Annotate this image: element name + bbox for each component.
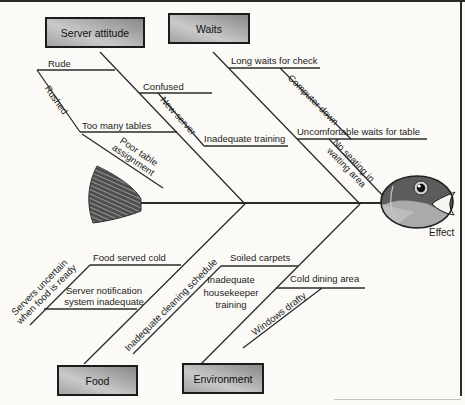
fishbone-diagram-page: Server attitude Waits Food Environment R… — [0, 0, 465, 405]
category-box-server-attitude: Server attitude — [45, 17, 145, 48]
effect-label: Effect — [429, 227, 454, 238]
category-label-server-attitude: Server attitude — [61, 27, 129, 39]
label-inadequate-training: Inadequate training — [204, 133, 285, 144]
label-confused: Confused — [143, 81, 184, 92]
label-long-waits-for-check: Long waits for check — [231, 55, 318, 66]
fish-tail — [89, 166, 141, 223]
label-soiled-carpets: Soiled carpets — [230, 252, 290, 263]
category-box-environment: Environment — [182, 363, 264, 394]
category-box-waits: Waits — [168, 13, 250, 44]
category-label-waits: Waits — [196, 23, 222, 35]
category-box-food: Food — [57, 365, 138, 396]
fish-head — [381, 176, 455, 229]
label-food-served-cold: Food served cold — [93, 252, 166, 263]
label-server-notification: Server notification system inadequate — [55, 285, 153, 307]
label-too-many-tables: Too many tables — [82, 120, 151, 131]
label-uncomfortable-waits: Uncomfortable waits for table — [297, 126, 420, 137]
category-label-environment: Environment — [194, 373, 253, 385]
label-cold-dining-area: Cold dining area — [290, 273, 359, 284]
label-rude: Rude — [48, 58, 71, 69]
label-inadequate-housekeeper-training: Inadequate housekeeper training — [193, 274, 269, 312]
category-label-food: Food — [86, 375, 110, 387]
